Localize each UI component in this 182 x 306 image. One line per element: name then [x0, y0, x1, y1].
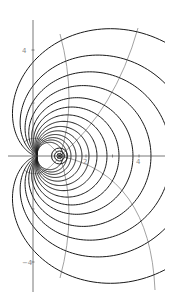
orthogonal-curve [60, 28, 138, 156]
x-tick-label: 2 [83, 158, 87, 166]
orthogonal-curve [60, 34, 69, 156]
orthogonal-curve [60, 156, 155, 290]
x-tick-label: 4 [136, 158, 141, 166]
axes [8, 20, 165, 292]
y-tick-label: 4 [22, 47, 27, 55]
y-tick-label: −4 [22, 259, 33, 267]
field-line-plot: 244−4 [0, 0, 182, 306]
orthogonal-curve [60, 156, 69, 278]
